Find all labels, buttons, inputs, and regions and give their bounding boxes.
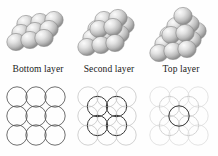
packing-diagram-top-layer [145,82,217,152]
packing-diagram-second-layer [73,82,145,152]
caption-bottom-layer: Bottom layer [2,63,74,76]
panel-bottom-layer: Bottom layer [2,0,74,156]
packing-diagram-bottom-layer [2,82,74,152]
panel-second-layer: Second layer [73,0,145,156]
caption-second-layer: Second layer [73,63,145,76]
sphere-stack-top-layer [145,2,217,62]
caption-top-layer: Top layer [145,63,217,76]
close-packing-figure: Bottom layer [0,0,218,156]
sphere-stack-bottom-layer [2,2,74,62]
panel-top-layer: Top layer [145,0,217,156]
sphere-stack-second-layer [73,2,145,62]
